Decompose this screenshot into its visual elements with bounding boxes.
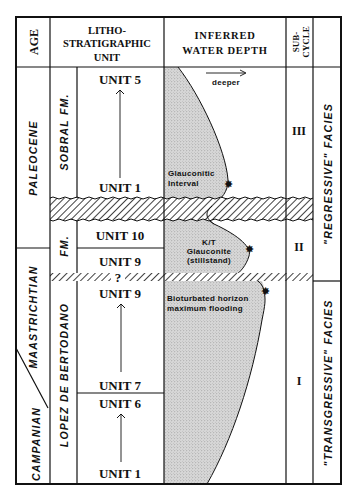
hatched-band-lower bbox=[50, 273, 313, 281]
header-litho-3: UNIT bbox=[94, 52, 120, 63]
unit-lb-9-lower: UNIT 9 bbox=[99, 286, 142, 301]
star-marker-icon: ✸ bbox=[261, 285, 270, 297]
glauconitic-label-1: Glauconitic bbox=[168, 169, 215, 178]
glauconitic-label-2: Interval bbox=[168, 179, 199, 188]
unit-lb-1: UNIT 1 bbox=[99, 466, 141, 481]
kt-label-2: Glauconite bbox=[187, 247, 232, 256]
formation-lopez-fm: FM. bbox=[58, 235, 70, 257]
header-age: AGE bbox=[27, 29, 41, 55]
age-paleocene: PALEOCENE bbox=[27, 120, 39, 195]
kt-label-1: K/T bbox=[202, 238, 216, 247]
unit-sobral-1: UNIT 1 bbox=[99, 180, 141, 195]
header-subcycle-1: SUB- bbox=[291, 32, 301, 53]
formation-lopez-de-bertodano: LOPEZ DE BERTODANO bbox=[58, 303, 70, 447]
formation-sobral: SOBRAL FM. bbox=[58, 93, 70, 170]
header-subcycle-2: CYCLE bbox=[301, 26, 311, 58]
unit-lb-10: UNIT 10 bbox=[96, 228, 145, 243]
header-depth-1: INFERRED bbox=[194, 30, 255, 41]
header-depth-2: WATER DEPTH bbox=[182, 45, 267, 56]
subcycle-iii: III bbox=[292, 124, 306, 138]
header-litho-2: STRATIGRAPHIC bbox=[63, 38, 151, 49]
unit-lb-6: UNIT 6 bbox=[99, 396, 142, 411]
bioturbated-label-2: maximum flooding bbox=[167, 304, 243, 313]
unit-lb-9-upper: UNIT 9 bbox=[99, 254, 142, 269]
facies-regressive: "REGRESSIVE" FACIES bbox=[322, 103, 334, 245]
star-marker-icon: ✸ bbox=[245, 243, 254, 255]
subcycle-i: I bbox=[297, 374, 302, 388]
unit-lb-7: UNIT 7 bbox=[99, 378, 142, 393]
hatched-band-kt bbox=[50, 198, 313, 220]
unit-sobral-5: UNIT 5 bbox=[99, 72, 142, 87]
uncertain-marker: ? bbox=[115, 270, 122, 285]
header-litho-1: LITHO- bbox=[88, 25, 126, 36]
subcycle-ii: II bbox=[294, 240, 304, 254]
deeper-label: deeper bbox=[212, 78, 240, 87]
bioturbated-label-1: Bioturbated horizon bbox=[167, 294, 249, 303]
kt-label-3: (stillstand) bbox=[187, 256, 231, 265]
facies-transgressive: "TRANSGRESSIVE" FACIES bbox=[322, 299, 334, 466]
stratigraphic-diagram: AGE LITHO- STRATIGRAPHIC UNIT INFERRED W… bbox=[0, 0, 350, 500]
star-marker-icon: ✸ bbox=[224, 178, 233, 190]
age-maastrichtian: MAASTRICHTIAN bbox=[27, 265, 39, 368]
age-campanian: CAMPANIAN bbox=[30, 407, 42, 481]
